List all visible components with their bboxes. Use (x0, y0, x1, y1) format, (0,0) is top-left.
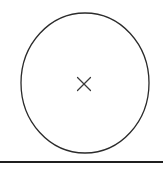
drawing-canvas: circle outline center mark baseline rule (0, 0, 163, 170)
figure-svg (0, 0, 163, 170)
canvas-background (0, 0, 163, 170)
